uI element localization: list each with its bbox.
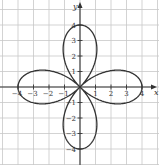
y-tick-label: −3 — [66, 130, 76, 138]
x-axis-label: x — [154, 88, 159, 97]
y-axis-arrow-icon — [78, 2, 83, 8]
y-tick-label: 3 — [72, 37, 76, 45]
x-tick-label: −4 — [12, 90, 23, 98]
y-tick-label: 1 — [72, 68, 76, 76]
x-tick-label: 3 — [124, 90, 128, 98]
axes — [0, 2, 157, 165]
x-tick-label: −2 — [43, 90, 53, 98]
rose-curve-plot: −4−3−2−11234−4−3−2−11234 x y — [0, 0, 159, 165]
y-tick-label: −4 — [66, 146, 77, 154]
y-axis-label: y — [72, 2, 78, 11]
y-tick-label: 2 — [72, 53, 76, 61]
x-tick-label: 2 — [109, 90, 113, 98]
x-tick-label: −3 — [27, 90, 37, 98]
y-tick-label: −2 — [66, 115, 76, 123]
